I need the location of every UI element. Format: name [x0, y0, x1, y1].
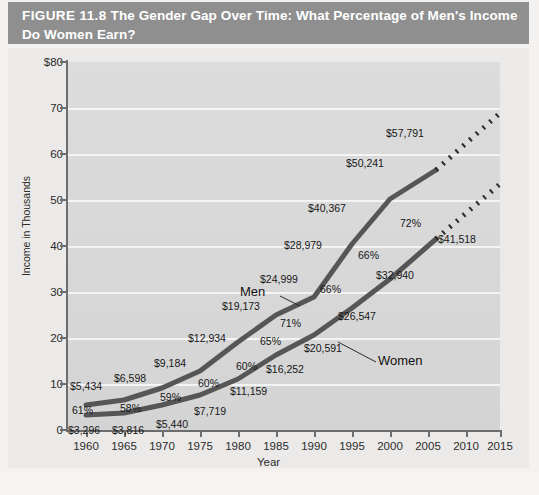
ratio-label-1965: 58%	[120, 403, 141, 414]
men-label-2006: $57,791	[386, 128, 424, 139]
men-label-1985: $24,999	[260, 274, 298, 285]
men-label-1970: $9,184	[154, 358, 186, 369]
ratio-label-2006: 72%	[400, 218, 421, 229]
women-leader-line	[338, 342, 376, 362]
ratio-label-1980: 60%	[236, 361, 257, 372]
women-label-1990: $20,591	[304, 343, 342, 354]
ratio-label-1990: 71%	[280, 318, 301, 329]
men-leader-line	[280, 296, 300, 306]
men-label-1990: $28,979	[284, 240, 322, 251]
men-label-1995: $40,367	[308, 203, 346, 214]
women-label-1970: $5,440	[156, 419, 188, 430]
men-label-1965: $6,598	[114, 373, 146, 384]
women-projection-line	[436, 184, 500, 239]
ratio-label-1975: 60%	[198, 378, 219, 389]
women-label-1995: $26,547	[338, 311, 376, 322]
men-label-1975: $12,934	[188, 333, 226, 344]
ratio-label-1960: 61%	[72, 405, 93, 416]
series-label-men: Men	[240, 284, 265, 299]
women-label-1960: $3,296	[68, 425, 100, 436]
ratio-label-1995: 66%	[320, 284, 341, 295]
figure-header: FIGURE 11.8 The Gender Gap Over Time: Wh…	[8, 2, 529, 44]
women-label-2000: $32,940	[376, 270, 414, 281]
women-label-1980: $11,159	[230, 386, 267, 397]
men-label-1960: $5,434	[70, 381, 102, 392]
women-label-1985: $16,252	[266, 364, 304, 375]
men-projection-line	[436, 113, 500, 170]
women-label-1975: $7,719	[194, 406, 226, 417]
figure-root: FIGURE 11.8 The Gender Gap Over Time: Wh…	[0, 0, 539, 495]
chart-container: $80 70 60 50 40 30 20 10 0	[8, 48, 529, 468]
women-label-1965: $3,816	[112, 425, 144, 436]
ratio-label-1970: 59%	[160, 392, 181, 403]
ratio-label-2000: 66%	[358, 250, 379, 261]
women-label-2006: $41,518	[438, 234, 476, 245]
men-label-1980: $19,173	[222, 301, 260, 312]
figure-footer	[0, 473, 539, 495]
ratio-label-1985: 65%	[260, 336, 281, 347]
series-label-women: Women	[378, 353, 423, 368]
figure-number: FIGURE 11.8	[22, 8, 107, 23]
men-label-2000: $50,241	[346, 158, 384, 169]
